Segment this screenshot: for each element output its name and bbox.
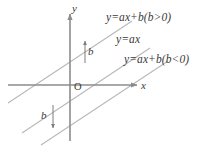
origin-label: O <box>74 82 82 93</box>
b-offset-label-down: b <box>41 110 47 121</box>
line-b-negative <box>41 61 168 145</box>
equation-label-b-zero: y=ax <box>116 34 140 46</box>
y-axis-label: y <box>72 3 77 14</box>
x-axis-label: x <box>141 80 146 91</box>
equation-label-b-positive: y=ax+b(b>0) <box>106 12 171 24</box>
linear-functions-figure: y=ax+b(b>0) y=ax y=ax+b(b<0) y x O b b <box>0 0 220 148</box>
b-offset-label-up: b <box>88 46 94 57</box>
equation-label-b-negative: y=ax+b(b<0) <box>124 54 189 66</box>
